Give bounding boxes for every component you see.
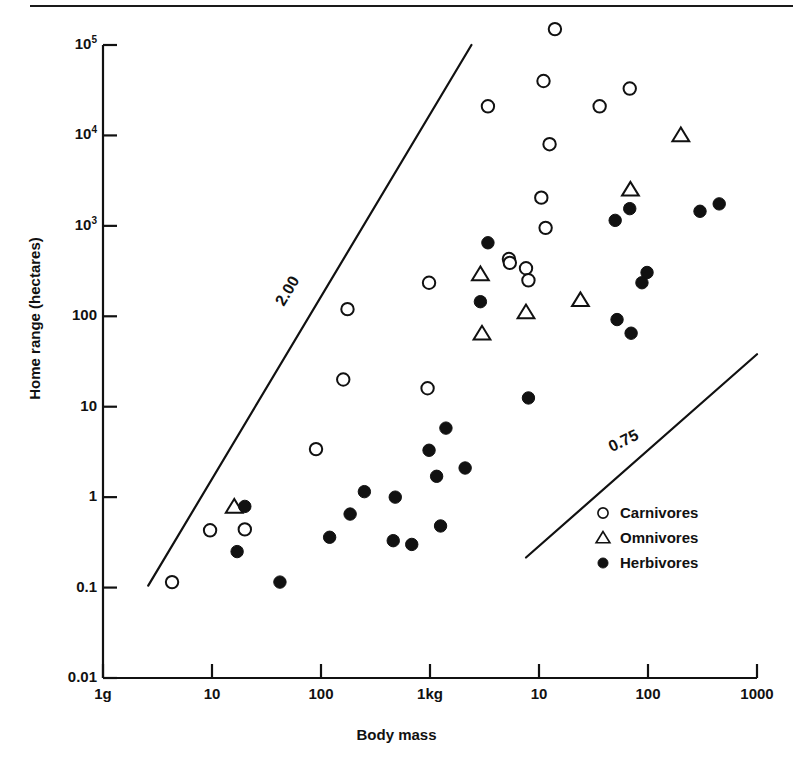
data-point [549,23,561,35]
data-point [423,277,435,289]
data-point [482,100,494,112]
data-point [622,182,639,196]
open-triangle-icon [592,527,614,549]
scatter-plot-canvas [0,0,793,766]
data-point [423,444,435,456]
data-point [430,470,442,482]
data-point [539,222,551,234]
x-tick-label: 10 [499,686,579,701]
data-point [239,523,251,535]
data-point [609,214,621,226]
x-tick-label: 100 [281,686,361,701]
data-point [341,303,353,315]
data-point [421,382,433,394]
data-point [625,327,637,339]
legend-item-omnivores: Omnivores [592,525,782,550]
data-point [310,443,322,455]
data-point [672,127,689,141]
data-point [543,138,555,150]
x-tick-label: 1g [63,686,143,701]
x-tick-label: 100 [608,686,688,701]
chart-legend: CarnivoresOmnivoresHerbivores [592,500,782,575]
x-axis-title: Body mass [0,726,793,743]
data-point [504,257,516,269]
data-point [337,373,349,385]
x-tick-label: 1000 [717,686,793,701]
y-tick-label: 104 [75,126,97,141]
data-point [611,313,623,325]
data-point [358,485,370,497]
data-point [472,266,489,280]
data-point [624,82,636,94]
open-circle-icon [592,502,614,524]
data-point [274,576,286,588]
x-tick-label: 10 [172,686,252,701]
data-point [518,305,535,319]
data-point [522,392,534,404]
x-tick-label: 1kg [390,686,470,701]
y-tick-label: 0.01 [68,669,97,684]
figure-container: 1051041031001010.10.01 1g101001kg1010010… [0,0,793,766]
data-point [713,198,725,210]
data-point [239,500,251,512]
data-point [482,237,494,249]
legend-item-carnivores: Carnivores [592,500,782,525]
data-point [204,524,216,536]
data-point [406,538,418,550]
data-point [474,295,486,307]
y-axis-title: Home range (hectares) [26,169,43,469]
legend-item-label: Carnivores [620,504,698,521]
y-tick-label: 103 [75,217,97,232]
data-point [520,262,532,274]
axis-lines [103,45,757,678]
data-point [593,100,605,112]
data-point [231,545,243,557]
y-tick-label: 105 [75,36,97,51]
data-point [572,292,589,306]
y-axis-ticks [103,45,117,678]
legend-item-label: Omnivores [620,529,698,546]
data-point [389,491,401,503]
data-point [535,191,547,203]
y-tick-label: 10 [80,398,97,413]
x-axis-ticks [103,664,757,678]
y-tick-label: 100 [72,307,97,322]
data-point [387,534,399,546]
filled-circle-icon [592,552,614,574]
data-point [166,576,178,588]
data-point [440,422,452,434]
y-tick-label: 0.1 [76,579,97,594]
legend-item-label: Herbivores [620,554,698,571]
data-point [537,75,549,87]
data-point [641,266,653,278]
data-point [474,326,491,340]
data-point [344,508,356,520]
data-point [434,520,446,532]
y-tick-label: 1 [89,488,97,503]
data-point [624,202,636,214]
data-point [694,205,706,217]
data-point [522,274,534,286]
data-point [323,531,335,543]
legend-item-herbivores: Herbivores [592,550,782,575]
data-point [459,462,471,474]
